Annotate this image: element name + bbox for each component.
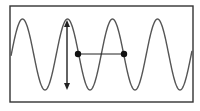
wavelength-point-end bbox=[121, 51, 127, 57]
wave-diagram bbox=[0, 0, 200, 111]
amplitude-arrow bbox=[64, 20, 70, 90]
wavelength-point-start bbox=[75, 51, 81, 57]
arrowhead-down-icon bbox=[64, 83, 70, 90]
